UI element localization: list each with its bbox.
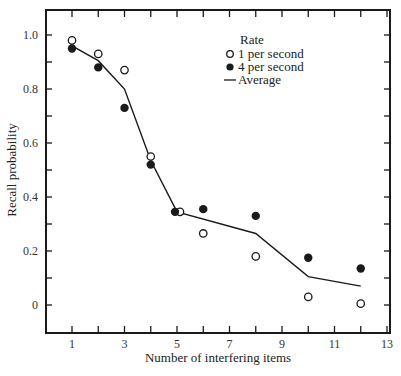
x-tick-label: 9 — [279, 337, 285, 351]
plot-frame — [46, 10, 390, 333]
legend: Rate 1 per second 4 per second Average — [224, 32, 304, 87]
y-axis-title: Recall probability — [4, 123, 19, 217]
open-circle-point — [121, 66, 128, 73]
average-line — [72, 46, 361, 286]
filled-circle-point — [147, 160, 155, 168]
x-axis-title: Number of interfering items — [145, 350, 291, 365]
filled-circle-point — [171, 208, 179, 216]
y-tick-label: 1.0 — [23, 28, 38, 42]
filled-circle-point — [252, 212, 260, 220]
y-tick-label: 0.4 — [23, 190, 38, 204]
y-tick-label: 0.2 — [23, 244, 38, 258]
legend-label-average: Average — [238, 72, 281, 87]
x-tick-label: 7 — [227, 337, 233, 351]
open-circle-point — [95, 50, 102, 57]
x-tick-label: 3 — [122, 337, 128, 351]
open-circle-point — [357, 300, 364, 307]
filled-circle-icon — [226, 63, 233, 70]
open-circle-point — [252, 253, 259, 260]
x-tick-label: 13 — [381, 337, 393, 351]
x-tick-label: 1 — [69, 337, 75, 351]
y-tick-label: 0.8 — [23, 82, 38, 96]
legend-title: Rate — [240, 32, 264, 47]
open-circle-point — [200, 230, 207, 237]
open-circle-icon — [227, 51, 234, 58]
y-tick-label: 0 — [32, 298, 38, 312]
open-circle-point — [68, 37, 75, 44]
open-circle-point — [147, 153, 154, 160]
filled-circle-point — [357, 264, 365, 272]
x-tick-labels: 135791113 — [69, 337, 393, 351]
axis-ticks — [46, 10, 390, 333]
filled-circle-point — [68, 44, 76, 52]
x-tick-label: 5 — [174, 337, 180, 351]
filled-circle-point — [120, 104, 128, 112]
filled-circle-point — [94, 63, 102, 71]
recall-chart: 135791113 00.20.40.60.81.0 Number of int… — [0, 0, 401, 376]
four-per-second-points — [68, 44, 365, 272]
filled-circle-point — [199, 205, 207, 213]
filled-circle-point — [304, 254, 312, 262]
x-tick-label: 11 — [329, 337, 341, 351]
y-tick-label: 0.6 — [23, 136, 38, 150]
average-polyline — [72, 46, 361, 286]
y-tick-labels: 00.20.40.60.81.0 — [23, 28, 38, 312]
open-circle-point — [305, 293, 312, 300]
